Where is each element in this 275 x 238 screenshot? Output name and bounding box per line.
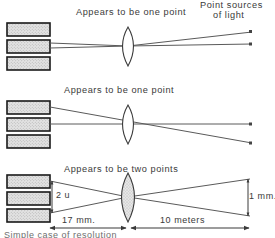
receptor-cell bbox=[7, 135, 50, 148]
ray-bundle-2 bbox=[50, 107, 252, 143]
ray-bundle-3 bbox=[50, 179, 250, 216]
object-distance-label: 10 meters bbox=[160, 216, 205, 225]
point-sources-label-line2: of light bbox=[213, 11, 244, 21]
panel-2 bbox=[7, 101, 252, 148]
ray-crossing-up bbox=[50, 179, 250, 213]
receptor-cell bbox=[7, 192, 50, 205]
receptor-stack-3 bbox=[7, 175, 50, 222]
receptor-cell bbox=[7, 101, 50, 114]
lens bbox=[123, 27, 134, 66]
lens bbox=[123, 105, 134, 144]
ray-crossing-down bbox=[50, 181, 250, 216]
cut-off-caption: Simple case of resolution bbox=[0, 231, 275, 238]
point-source-marker bbox=[249, 30, 252, 33]
ray-upper bbox=[50, 32, 252, 46]
receptor-cell bbox=[7, 209, 50, 222]
receptor-separation-label: 2 u bbox=[56, 191, 70, 200]
panel-1-caption: Appears to be one point bbox=[76, 8, 186, 18]
receptor-stack-1 bbox=[7, 23, 50, 70]
receptor-cell bbox=[7, 23, 50, 36]
point-source-marker bbox=[249, 43, 252, 46]
receptor-cell bbox=[7, 175, 50, 188]
cut-off-caption-text: Simple case of resolution bbox=[4, 231, 117, 238]
receptor-cell bbox=[7, 57, 50, 70]
receptor-cell bbox=[7, 40, 50, 53]
panel-3-caption: Appears to be two points bbox=[64, 165, 178, 175]
panel-3 bbox=[7, 173, 250, 228]
lens-shaded bbox=[122, 173, 135, 222]
receptor-stack-2 bbox=[7, 101, 50, 148]
optics-resolution-diagram bbox=[0, 0, 275, 238]
receptor-cell bbox=[7, 118, 50, 131]
object-separation-label: 1 mm. bbox=[249, 192, 275, 201]
panel-1 bbox=[7, 23, 252, 70]
image-distance-label: 17 mm. bbox=[62, 216, 95, 225]
ray-bundle-1 bbox=[50, 32, 252, 48]
point-source-marker bbox=[249, 142, 252, 145]
point-source-marker bbox=[249, 123, 252, 126]
panel-2-caption: Appears to be one point bbox=[64, 86, 174, 96]
ray-upper bbox=[50, 107, 252, 143]
